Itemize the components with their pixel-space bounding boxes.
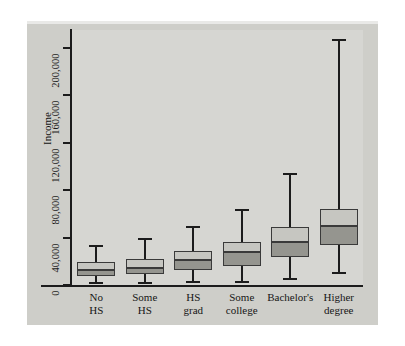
y-tick-label: 80,000 [50,196,61,225]
box-upper-quartile [320,209,358,226]
upper-whisker [289,174,291,227]
lower-whisker-cap [138,282,152,284]
plot-area [70,30,363,285]
lower-whisker [338,245,340,273]
median-line [126,267,164,269]
upper-whisker-cap [283,173,297,175]
x-tick-label: Higherdegree [299,291,379,316]
x-axis-line [41,285,363,287]
x-tick-label-line: degree [299,304,379,317]
y-tick-mark [63,284,71,286]
box-lower-quartile [174,260,212,269]
y-tick-label: 120,000 [50,148,61,182]
y-tick-mark [63,94,71,96]
y-tick-mark [63,142,71,144]
upper-whisker-cap [186,226,200,228]
upper-whisker-cap [332,39,346,41]
median-line [320,225,358,227]
lower-whisker [289,257,291,280]
y-tick-label: 200,000 [50,54,61,88]
upper-whisker [241,210,243,242]
y-tick-mark [63,237,71,239]
lower-whisker [241,266,243,282]
scan-light-streak [27,21,378,24]
lower-whisker-cap [332,272,346,274]
upper-whisker-cap [89,245,103,247]
box-lower-quartile [223,252,261,266]
box-upper-quartile [271,227,309,242]
upper-whisker-cap [138,238,152,240]
lower-whisker-cap [283,278,297,280]
median-line [77,269,115,271]
y-tick-mark [63,189,71,191]
upper-whisker [338,40,340,209]
median-line [223,251,261,253]
x-tick-label-line: college [202,304,282,317]
lower-whisker-cap [89,282,103,284]
y-tick-label: 160,000 [50,101,61,135]
median-line [174,259,212,261]
median-line [271,241,309,243]
y-axis-line [70,29,72,286]
upper-whisker-cap [235,209,249,211]
y-tick-label: 40,000 [50,243,61,272]
y-tick-mark [63,47,71,49]
lower-whisker-cap [235,281,249,283]
upper-whisker [144,239,146,259]
upper-whisker [192,227,194,251]
lower-whisker-cap [186,281,200,283]
figure-panel: Income 040,00080,000120,000160,000200,00… [27,21,378,325]
x-tick-label-line: Higher [299,291,379,304]
upper-whisker [95,246,97,263]
box-lower-quartile [320,226,358,245]
box-lower-quartile [271,242,309,256]
